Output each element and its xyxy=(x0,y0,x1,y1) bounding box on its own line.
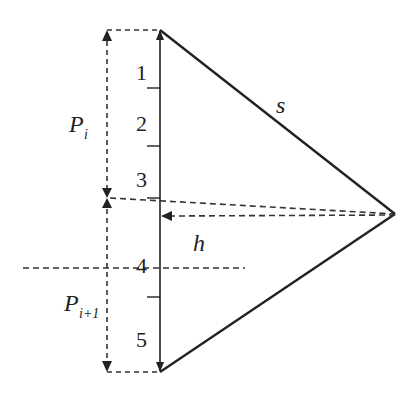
segment-label-4: 4 xyxy=(136,253,147,278)
diagram-canvas: 1 2 3 4 5 s h P i P i+1 xyxy=(0,0,420,396)
triangle-panel-diagram: 1 2 3 4 5 s h P i P i+1 xyxy=(0,0,420,396)
label-p-i-plus-1: P xyxy=(63,290,79,316)
segment-label-2: 2 xyxy=(136,111,147,136)
label-h: h xyxy=(193,230,205,256)
side-s-upper xyxy=(160,30,395,214)
segment-label-5: 5 xyxy=(136,327,147,352)
segment-label-3: 3 xyxy=(136,167,147,192)
arrowhead-p-i1-top xyxy=(102,198,112,208)
label-p-i-plus-1-subscript: i+1 xyxy=(79,306,99,321)
label-s: s xyxy=(276,92,285,118)
arrowhead-p-i1-bottom xyxy=(102,361,112,372)
dashed-line-to-apex xyxy=(110,198,395,214)
label-p-i: P xyxy=(68,111,84,137)
height-h-arrow xyxy=(170,215,395,216)
segment-label-1: 1 xyxy=(136,60,147,85)
arrowhead-p-i-top xyxy=(102,30,112,41)
label-p-i-subscript: i xyxy=(84,127,88,142)
arrowhead-p-i-bottom xyxy=(102,188,112,198)
arrowhead-h xyxy=(161,211,172,221)
